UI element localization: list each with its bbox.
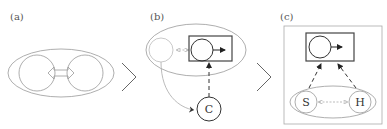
focus-circle xyxy=(309,36,331,58)
curved-arrow xyxy=(161,62,194,110)
node-s-label: S xyxy=(302,96,310,109)
node-c-label: C xyxy=(205,103,213,116)
separator-chevron-icon xyxy=(122,63,136,91)
bidirectional-arrow-icon xyxy=(48,67,74,79)
panel-b-label: (b) xyxy=(150,11,164,22)
outer-frame xyxy=(284,26,382,124)
panel-b: (b) C xyxy=(146,11,246,121)
dashed-arrow-h xyxy=(338,64,356,88)
panel-c-label: (c) xyxy=(280,11,294,22)
outer-ellipse xyxy=(8,49,114,97)
diagram-canvas: (a) (b) C (c) S xyxy=(0,0,387,129)
faded-circle xyxy=(149,38,173,62)
focus-box xyxy=(306,33,354,61)
left-circle xyxy=(19,55,55,91)
right-circle xyxy=(67,55,103,91)
panel-a: (a) xyxy=(8,11,114,97)
separator-chevron-icon xyxy=(257,63,271,91)
focus-circle xyxy=(191,39,213,61)
panel-a-label: (a) xyxy=(10,11,24,22)
node-h-label: H xyxy=(355,96,365,109)
dashed-arrow-s xyxy=(309,64,321,88)
panel-c: (c) S H xyxy=(280,11,382,124)
